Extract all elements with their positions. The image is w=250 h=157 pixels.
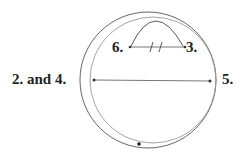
label-6: 6. xyxy=(112,40,123,55)
label-5: 5. xyxy=(222,72,233,87)
label-3: 3. xyxy=(186,40,197,55)
geometry-diagram: 2. and 4. 5. 6. 3. xyxy=(0,0,250,157)
point-bottom xyxy=(137,142,141,146)
horizontal-diameter xyxy=(94,80,210,81)
upper-arc xyxy=(131,21,183,46)
label-2-and-4: 2. and 4. xyxy=(12,72,66,87)
point-left xyxy=(93,79,96,82)
point-6 xyxy=(129,46,132,49)
point-right xyxy=(209,80,212,83)
